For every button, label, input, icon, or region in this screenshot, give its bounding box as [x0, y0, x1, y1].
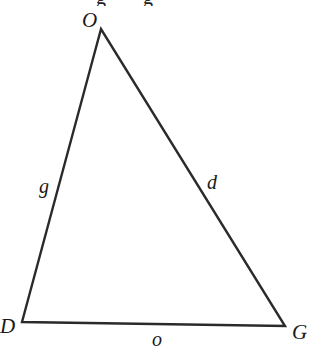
vertex-label-G: G — [292, 320, 307, 344]
vertex-label-O: O — [82, 8, 97, 32]
side-label-o: o — [152, 328, 162, 350]
side-label-d: d — [207, 171, 218, 193]
triangle-diagram: O D G g d o — [0, 0, 318, 351]
triangle-ODG — [22, 29, 285, 326]
vertex-label-D: D — [0, 314, 15, 338]
side-label-g: g — [39, 175, 49, 198]
